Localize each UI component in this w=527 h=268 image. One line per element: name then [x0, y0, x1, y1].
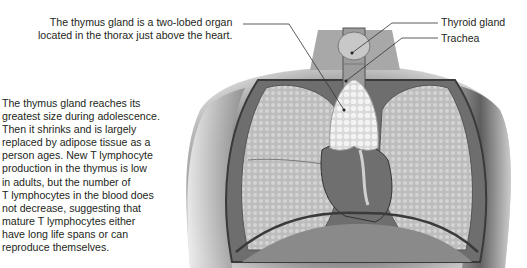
side-note-line: greatest size during adolescence. — [2, 110, 198, 123]
side-note-line: in adults, but the number of — [2, 176, 198, 189]
side-note-line: Then it shrinks and is largely — [2, 123, 198, 136]
side-note-line: The thymus gland reaches its — [2, 97, 198, 110]
thymus-callout-line2: located in the thorax just above the hea… — [38, 29, 232, 42]
side-note-line: mature T lymphocytes either — [2, 215, 198, 228]
thymus-callout: The thymus gland is a two-lobed organ lo… — [38, 16, 232, 42]
side-note-line: reproduce themselves. — [2, 241, 198, 254]
thyroid-label: Thyroid gland — [441, 16, 505, 29]
side-note-line: production in the thymus is low — [2, 162, 198, 175]
side-note-line: not decrease, suggesting that — [2, 202, 198, 215]
side-note-line: T lymphocytes in the blood does — [2, 189, 198, 202]
side-note-line: replaced by adipose tissue as a — [2, 136, 198, 149]
trachea-label: Trachea — [441, 32, 479, 45]
thyroid-gland — [338, 32, 370, 60]
side-note-line: person ages. New T lymphocyte — [2, 149, 198, 162]
side-note: The thymus gland reaches its greatest si… — [2, 97, 198, 254]
thymus-callout-line1: The thymus gland is a two-lobed organ — [38, 16, 232, 29]
side-note-line: have long life spans or can — [2, 228, 198, 241]
